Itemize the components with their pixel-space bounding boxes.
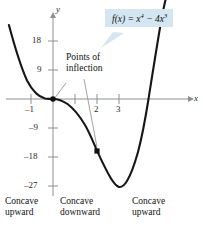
formula-middle: − 4x xyxy=(144,14,164,24)
concavity-right-line1: Concave xyxy=(132,196,165,206)
concavity-middle-line2: downward xyxy=(60,207,100,217)
formula-name: f(x) = x xyxy=(112,14,141,24)
concavity-right-caption: Concave upward xyxy=(132,196,165,218)
y-tick-label-neg18: –18 xyxy=(24,151,38,161)
inflection-point-two-marker xyxy=(94,148,99,153)
points-of-inflection-line2: inflection xyxy=(66,63,102,73)
concavity-middle-line1: Concave xyxy=(60,196,93,206)
y-axis-label: y xyxy=(56,4,60,14)
x-tick-label-2: 2 xyxy=(94,104,99,114)
concavity-left-caption: Concave upward xyxy=(5,196,38,218)
x-tick-label-neg1: –1 xyxy=(25,104,34,114)
x-axis-label: x xyxy=(194,93,198,103)
concavity-middle-caption: Concave downward xyxy=(60,196,100,218)
concavity-graph-figure: 18 9 –9 –18 –27 –1 2 3 y x Points of inf… xyxy=(0,0,203,230)
function-formula-callout: f(x) = x4 − 4x3 xyxy=(105,9,173,27)
leader-to-origin xyxy=(56,83,67,97)
y-tick-label-neg27: –27 xyxy=(24,180,38,190)
inflection-point-origin-marker xyxy=(50,96,56,102)
formula-exponent-2: 3 xyxy=(164,12,167,19)
y-tick-label-9: 9 xyxy=(37,64,42,74)
formula-callout-tail xyxy=(101,32,124,48)
points-of-inflection-label: Points of inflection xyxy=(66,52,102,73)
x-tick-label-3: 3 xyxy=(116,104,121,114)
concavity-right-line2: upward xyxy=(132,207,161,217)
concavity-left-line1: Concave xyxy=(5,196,38,206)
points-of-inflection-line1: Points of xyxy=(66,52,100,62)
y-tick-label-18: 18 xyxy=(32,35,41,45)
y-tick-label-neg9: –9 xyxy=(29,122,38,132)
concavity-left-line2: upward xyxy=(5,207,34,217)
